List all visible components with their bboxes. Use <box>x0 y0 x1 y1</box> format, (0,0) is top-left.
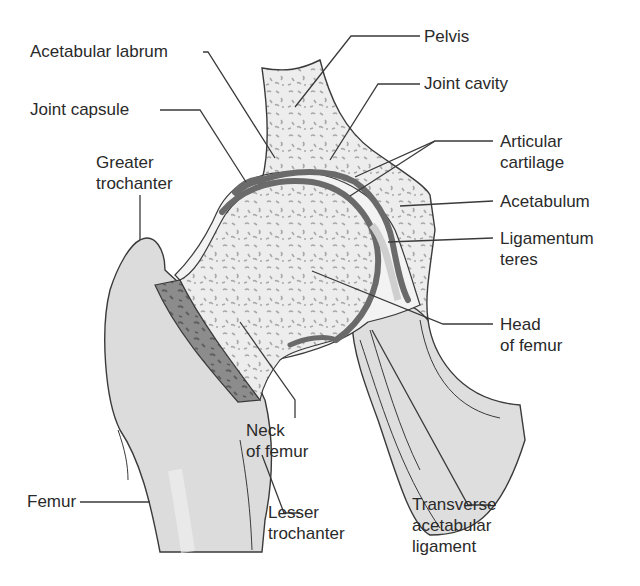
label-femur: Femur <box>27 491 76 512</box>
label-greater-trochanter: Greater trochanter <box>96 152 173 194</box>
label-lesser-trochanter: Lesser trochanter <box>268 502 345 544</box>
label-joint-capsule: Joint capsule <box>30 99 129 120</box>
label-joint-cavity: Joint cavity <box>424 73 508 94</box>
anatomy-illustration <box>0 0 640 586</box>
leader-joint-capsule <box>160 110 246 182</box>
hip-joint-diagram: Acetabular labrum Joint capsule Greater … <box>0 0 640 586</box>
label-acetabular-labrum: Acetabular labrum <box>30 41 168 62</box>
label-acetabulum: Acetabulum <box>500 191 590 212</box>
label-head-of-femur: Head of femur <box>500 314 562 356</box>
label-neck-of-femur: Neck of femur <box>246 420 308 462</box>
label-pelvis: Pelvis <box>424 26 469 47</box>
label-ligamentum-teres: Ligamentum teres <box>500 228 594 270</box>
label-articular-cartilage: Articular cartilage <box>500 131 564 173</box>
label-transverse-acetabular-ligament: Transverse acetabular ligament <box>412 494 496 557</box>
